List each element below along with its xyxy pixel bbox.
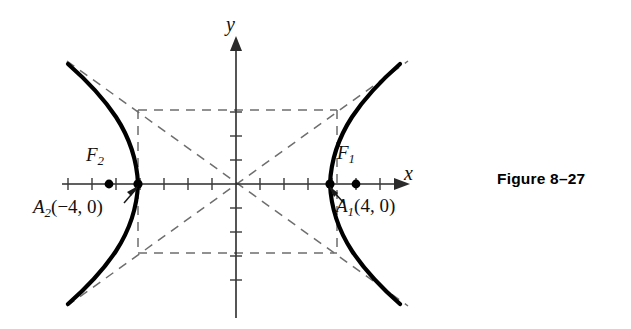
x-axis-label: x bbox=[404, 163, 413, 183]
vertex-a2-base: A bbox=[33, 196, 45, 217]
vertex-a1-base: A bbox=[336, 195, 348, 216]
figure-caption: Figure 8–27 bbox=[497, 170, 585, 188]
focus-f1-base: F bbox=[337, 142, 349, 163]
leader-arrows bbox=[124, 186, 344, 203]
focus-f2-dot bbox=[105, 180, 114, 189]
focus-f2-label: F2 bbox=[86, 145, 104, 168]
vertex-a2-coords: (−4, 0) bbox=[51, 196, 103, 217]
vertex-a1-label: A1(4, 0) bbox=[336, 196, 395, 219]
focus-f1-dot bbox=[352, 180, 361, 189]
vertex-a2-dot bbox=[133, 179, 142, 188]
y-axis-label: y bbox=[226, 14, 235, 34]
focus-f1-subscript: 1 bbox=[349, 151, 355, 166]
vertex-a1-coords: (4, 0) bbox=[354, 195, 395, 216]
focus-f2-subscript: 2 bbox=[98, 153, 104, 168]
coordinate-axes bbox=[62, 36, 410, 318]
focus-f1-label: F1 bbox=[337, 143, 355, 166]
y-axis-arrowhead bbox=[230, 36, 242, 51]
figure-container: y x F1 F2 A1(4, 0) A2(−4, 0) Figure 8–27 bbox=[0, 0, 631, 329]
focus-f2-base: F bbox=[86, 144, 98, 165]
vertex-a2-label: A2(−4, 0) bbox=[33, 197, 103, 220]
